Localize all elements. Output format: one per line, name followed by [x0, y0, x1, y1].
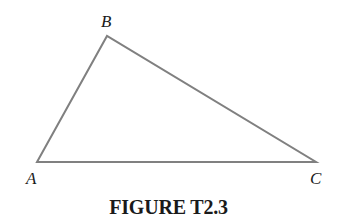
vertex-label-b: B — [101, 13, 111, 30]
vertex-label-c: C — [310, 170, 321, 187]
figure-caption: FIGURE T2.3 — [0, 197, 337, 217]
vertex-label-a: A — [26, 170, 36, 187]
triangle-figure: B A C FIGURE T2.3 — [0, 0, 337, 224]
triangle-diagram — [0, 0, 337, 224]
triangle-abc — [37, 36, 316, 162]
